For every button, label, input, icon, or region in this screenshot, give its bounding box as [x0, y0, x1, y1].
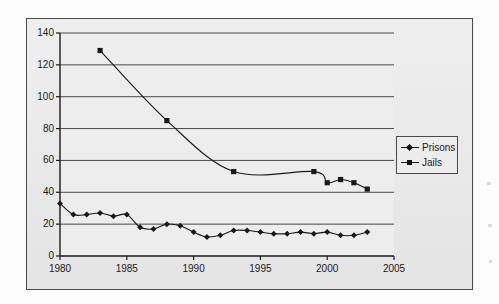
y-axis-tick-label: 60 — [28, 154, 54, 165]
x-axis-tick-label: 2000 — [311, 263, 343, 274]
y-axis-tick-label: 20 — [28, 218, 54, 229]
legend-marker-square-icon — [401, 158, 419, 168]
x-axis-tick-label: 2005 — [378, 263, 410, 274]
chart-legend: Prisons Jails — [396, 136, 458, 174]
y-axis-tick-label: 120 — [28, 59, 54, 70]
legend-marker-diamond-icon — [401, 143, 419, 153]
legend-item-prisons: Prisons — [401, 140, 453, 155]
y-axis-tick-label: 0 — [28, 250, 54, 261]
scan-speck — [488, 224, 492, 227]
y-axis-tick-label: 40 — [28, 186, 54, 197]
legend-label-jails: Jails — [422, 157, 442, 168]
scan-speck — [487, 182, 491, 185]
x-axis-tick-label: 1995 — [244, 263, 276, 274]
y-axis-tick-label: 140 — [28, 27, 54, 38]
x-axis-tick-label: 1990 — [178, 263, 210, 274]
y-axis-tick-label: 80 — [28, 123, 54, 134]
legend-label-prisons: Prisons — [422, 142, 455, 153]
legend-item-jails: Jails — [401, 155, 453, 170]
y-axis-tick-label: 100 — [28, 91, 54, 102]
x-axis-tick-label: 1985 — [111, 263, 143, 274]
scan-speck — [489, 260, 492, 263]
x-axis-tick-label: 1980 — [44, 263, 76, 274]
